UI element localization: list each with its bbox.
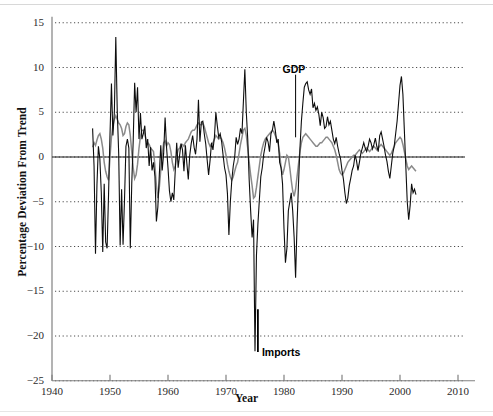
x-tick-label: 1990 xyxy=(317,385,367,397)
series-group xyxy=(93,37,416,351)
y-tick-label: 15 xyxy=(10,16,44,28)
chart-canvas xyxy=(0,0,493,416)
x-tick-label: 1940 xyxy=(27,385,77,397)
x-tick-label: 1960 xyxy=(143,385,193,397)
x-tick-label: 1950 xyxy=(85,385,135,397)
x-tick-label: 1970 xyxy=(201,385,251,397)
y-tick-label: 10 xyxy=(10,61,44,73)
y-tick-label: 5 xyxy=(10,105,44,117)
x-tick-label: 2000 xyxy=(375,385,425,397)
chart-figure: Percentage Deviation From Trend Year 151… xyxy=(0,0,493,416)
y-axis-title: Percentage Deviation From Trend xyxy=(16,92,28,292)
x-tick-label: 1980 xyxy=(259,385,309,397)
y-tick-label: −5 xyxy=(10,195,44,207)
tick-marks-group xyxy=(52,375,458,381)
y-tick-label: 0 xyxy=(10,150,44,162)
annotation-leaders-group xyxy=(258,75,296,352)
y-tick-label: −15 xyxy=(10,284,44,296)
series-label-imports: Imports xyxy=(262,346,301,358)
x-tick-label: 2010 xyxy=(433,385,483,397)
series-label-gdp: GDP xyxy=(283,63,306,75)
y-tick-label: −10 xyxy=(10,240,44,252)
y-tick-label: −20 xyxy=(10,329,44,341)
